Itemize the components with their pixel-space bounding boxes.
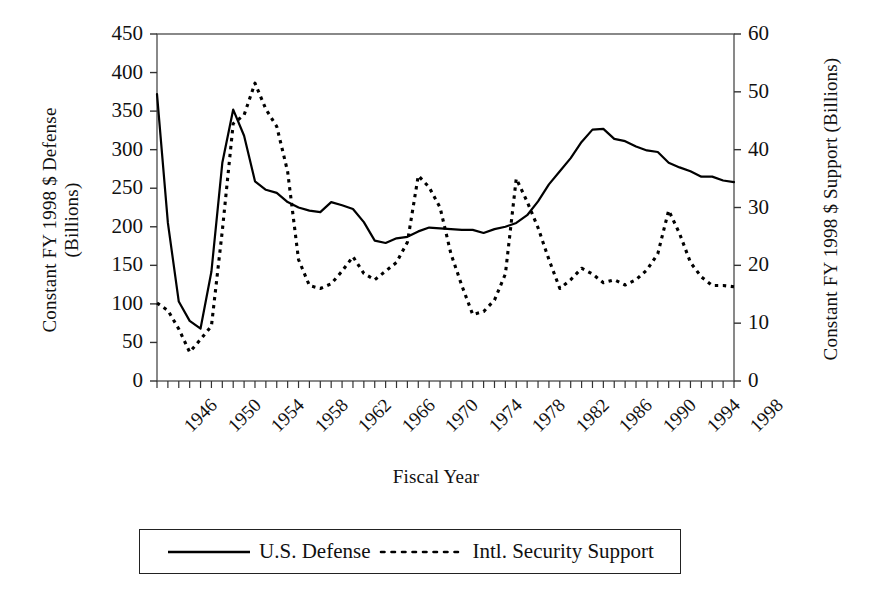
y-axis-left-tick-label: 450	[87, 23, 143, 44]
legend-entry-support: Intl. Security Support	[379, 539, 653, 564]
y-axis-right-title: Constant FY 1998 $ Support (Billions)	[820, 29, 842, 389]
legend-swatch-solid-icon	[166, 546, 252, 558]
y-axis-left-tick-label: 300	[87, 139, 143, 160]
y-axis-left-title: Constant FY 1998 $ Defense (Billions)	[39, 40, 83, 400]
y-axis-right-tick-label: 30	[748, 197, 804, 218]
y-axis-right-tick-label: 40	[748, 139, 804, 160]
axis-ticks	[150, 34, 741, 388]
y-axis-left-tick-label: 400	[87, 62, 143, 83]
y-axis-left-tick-label: 200	[87, 216, 143, 237]
y-axis-left-tick-label: 350	[87, 100, 143, 121]
y-axis-left-title-line1: Constant FY 1998 $ Defense	[39, 107, 60, 332]
y-axis-left-title-line2: (Billions)	[61, 40, 83, 400]
y-axis-right-title-line2: (Billions)	[820, 58, 841, 133]
y-axis-right-tick-label: 10	[748, 312, 804, 333]
chart-figure: Constant FY 1998 $ Defense (Billions) Co…	[0, 0, 872, 600]
chart-legend: U.S. Defense Intl. Security Support	[139, 529, 681, 574]
series-line-intl-security-support	[157, 83, 734, 352]
y-axis-right-title-line1: Constant FY 1998 $ Support	[820, 137, 841, 360]
legend-entry-defense: U.S. Defense	[166, 539, 370, 564]
y-axis-right-tick-label: 0	[748, 370, 804, 391]
plot-frame	[157, 34, 734, 381]
y-axis-left-tick-label: 0	[87, 370, 143, 391]
data-series	[157, 83, 734, 352]
y-axis-left-tick-label: 100	[87, 293, 143, 314]
y-axis-right-tick-label: 20	[748, 254, 804, 275]
y-axis-right-tick-label: 50	[748, 81, 804, 102]
series-line-us-defense	[157, 94, 734, 328]
y-axis-right-tick-label: 60	[748, 23, 804, 44]
legend-label-defense: U.S. Defense	[259, 539, 370, 564]
y-axis-left-tick-label: 150	[87, 254, 143, 275]
y-axis-left-tick-label: 50	[87, 331, 143, 352]
y-axis-left-tick-label: 250	[87, 177, 143, 198]
x-axis-title: Fiscal Year	[0, 466, 872, 488]
legend-swatch-dotted-icon	[379, 546, 465, 558]
legend-label-support: Intl. Security Support	[472, 539, 653, 564]
